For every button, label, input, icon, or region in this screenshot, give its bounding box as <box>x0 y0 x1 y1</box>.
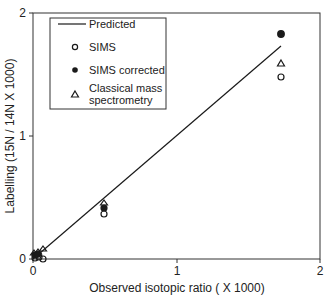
x-axis: 0 1 2 <box>30 259 324 278</box>
classical-ms-point <box>278 60 285 66</box>
y-tick-1: 1 <box>19 129 26 143</box>
sims-corrected-point <box>278 31 285 38</box>
sims-point <box>278 74 284 80</box>
sims-point <box>101 211 107 217</box>
sims-corrected-point <box>101 205 107 211</box>
legend: Predicted SIMS SIMS corrected Classical … <box>50 18 166 109</box>
legend-filled-circle-icon <box>72 67 78 73</box>
y-axis: 2 1 0 <box>19 6 33 266</box>
legend-sims: SIMS <box>89 41 116 53</box>
x-tick-0: 0 <box>30 264 37 278</box>
y-tick-2: 2 <box>19 6 26 20</box>
x-tick-2: 2 <box>317 264 324 278</box>
legend-classical-line1: Classical mass <box>89 82 163 94</box>
x-axis-label: Observed isotopic ratio ( X 1000) <box>89 281 264 295</box>
x-tick-1: 1 <box>174 264 181 278</box>
legend-sims-corrected: SIMS corrected <box>89 64 165 76</box>
chart: 2 1 0 0 1 2 Observed isotopic ratio ( X … <box>0 0 330 298</box>
legend-predicted: Predicted <box>89 18 135 30</box>
legend-classical-line2: spectrometry <box>89 94 153 106</box>
y-axis-label: Labelling (15N / 14N X 1000) <box>3 59 17 214</box>
y-tick-0: 0 <box>19 252 26 266</box>
